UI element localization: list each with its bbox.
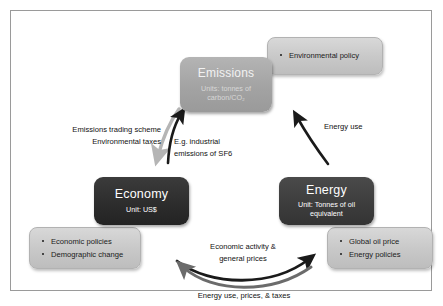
label-emissions-to-economy: Emissions trading scheme Environmental t… [33,124,161,148]
list-item: Global oil price [349,235,424,248]
node-energy-subtitle-line2: equivalent [310,209,343,218]
node-economy-title: Economy [115,188,169,202]
node-emissions: Emissions Units: tonnes of carbon/CO₂ [180,57,272,112]
node-economy: Economy Unit: US$ [94,177,189,225]
node-emissions-subtitle-line1: Units: tonnes of [201,84,251,93]
list-item: Economic policies [51,235,132,248]
diagram-frame: Environmental policy Economic policies D… [10,10,432,291]
label-line2: general prices [219,254,267,263]
list-item: Environmental policy [289,49,374,62]
label-energy-to-emissions: Energy use [324,121,362,133]
list-item: Demographic change [51,248,132,261]
infobox-energy-drivers: Global oil price Energy policies [327,227,433,269]
label-line1: Economic activity & [210,242,276,251]
list-item: Energy policies [349,248,424,261]
node-energy-title: Energy [306,184,347,198]
label-economy-to-energy: Energy use, prices, & taxes [189,290,299,302]
diagram-canvas: Environmental policy Economic policies D… [0,0,443,306]
node-energy-subtitle: Unit: Tonnes of oil equivalent [294,200,359,218]
label-line1: Emissions trading scheme [72,125,161,134]
node-energy: Energy Unit: Tonnes of oil equivalent [279,177,374,225]
node-emissions-subtitle: Units: tonnes of carbon/CO₂ [197,84,255,102]
infobox-list: Economic policies Demographic change [40,235,132,262]
label-economy-to-emissions: E.g. industrial emissions of SF6 [174,136,232,160]
infobox-list: Environmental policy [278,49,374,62]
node-economy-subtitle: Unit: US$ [122,205,161,214]
node-energy-subtitle-line1: Unit: Tonnes of oil [298,200,355,209]
label-energy-to-economy: Economic activity & general prices [195,241,291,265]
infobox-environmental-policy: Environmental policy [267,37,383,75]
infobox-list: Global oil price Energy policies [338,235,424,262]
infobox-economy-drivers: Economic policies Demographic change [29,227,141,269]
label-line2: emissions of SF6 [174,149,232,158]
node-emissions-title: Emissions [198,67,254,80]
label-line2: Environmental taxes [92,137,161,146]
label-line1: E.g. industrial [174,137,220,146]
node-emissions-subtitle-line2: carbon/CO₂ [207,93,245,102]
